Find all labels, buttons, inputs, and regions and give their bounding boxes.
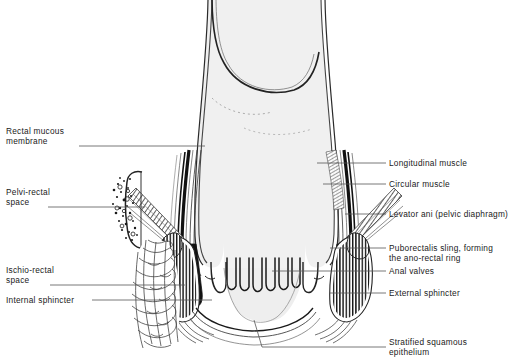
label-external-sphincter: External sphincter [389, 288, 460, 298]
label-longitudinal-muscle: Longitudinal muscle [389, 158, 467, 168]
label-puborectalis-sling: Puborectalis sling, formingthe ano-recta… [389, 243, 493, 264]
label-internal-sphincter: Internal sphincter [6, 295, 74, 305]
label-ischio-rectal-space: Ischio-rectalspace [6, 265, 54, 286]
label-rectal-mucous-membrane: Rectal mucousmembrane [6, 126, 64, 147]
label-pelvi-rectal-space: Pelvi-rectalspace [6, 187, 50, 208]
label-anal-valves: Anal valves [389, 266, 434, 276]
label-levator-ani: Levator ani (pelvic diaphragm) [389, 209, 508, 219]
label-circular-muscle: Circular muscle [389, 179, 450, 189]
label-stratified-squamous-epithelium: Stratified squamousepithelium [389, 337, 467, 358]
anatomy-diagram-page: Rectal mucousmembrane Pelvi-rectalspace … [0, 0, 529, 363]
